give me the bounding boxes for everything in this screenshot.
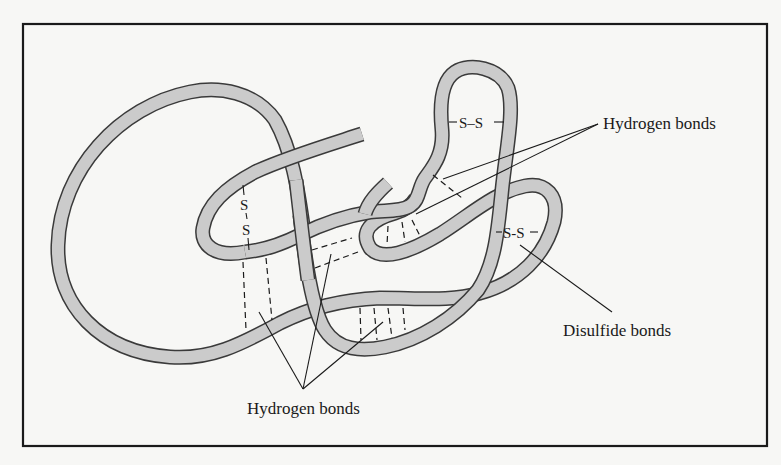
hydrogen-bond	[312, 238, 352, 250]
polypeptide-chain	[58, 67, 555, 357]
leader-line-disulfide	[520, 245, 612, 312]
label-hydrogen-bonds-top: Hydrogen bonds	[603, 114, 716, 133]
disulfide-top: S–S	[449, 115, 504, 131]
label-hydrogen-bonds-bottom: Hydrogen bonds	[247, 399, 360, 418]
disulfide-right-label: S-S	[503, 225, 525, 241]
disulfide-top-label: S–S	[459, 115, 483, 131]
hydrogen-bond	[402, 222, 405, 242]
disulfide-left: S S	[240, 185, 250, 250]
protein-folding-diagram: S S S–S S-S Hydrogen bonds Disulfide bon…	[0, 0, 781, 465]
hydrogen-bond	[374, 308, 377, 340]
hydrogen-bond	[412, 220, 420, 236]
figure-frame	[23, 24, 767, 446]
hydrogen-bond	[387, 226, 388, 245]
sulfur-atom: S	[240, 197, 248, 213]
hydrogen-bond-lines	[243, 175, 462, 340]
chain-segment-crossing-overlay	[296, 180, 308, 280]
hydrogen-bond	[243, 262, 246, 330]
hydrogen-bond	[433, 175, 462, 198]
hydrogen-bond	[360, 308, 361, 340]
leader-line-hydrogen-top-a	[443, 124, 598, 179]
sulfur-atom: S	[242, 222, 250, 238]
label-disulfide-bonds: Disulfide bonds	[563, 321, 671, 340]
disulfide-right: S-S	[496, 225, 538, 241]
hydrogen-bond	[388, 308, 392, 338]
hydrogen-bond	[403, 308, 405, 330]
hydrogen-bond	[266, 258, 272, 320]
hydrogen-bond	[315, 252, 358, 268]
